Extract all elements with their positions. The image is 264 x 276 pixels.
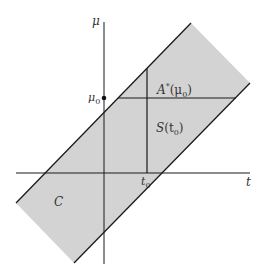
confidence-set-label: S(t0) xyxy=(156,121,184,137)
acceptance-region-label: A*(μ0) xyxy=(156,82,192,99)
t-axis-label: t xyxy=(246,175,251,189)
mu0-label: μ0 xyxy=(88,91,100,106)
band-label: C xyxy=(54,195,63,209)
mu0-point xyxy=(102,96,107,101)
confidence-band-diagram: μ t μ0 t0 A*(μ0) S(t0) C xyxy=(0,0,264,276)
mu-axis-label: μ xyxy=(92,14,100,28)
confidence-band-region xyxy=(16,23,250,263)
